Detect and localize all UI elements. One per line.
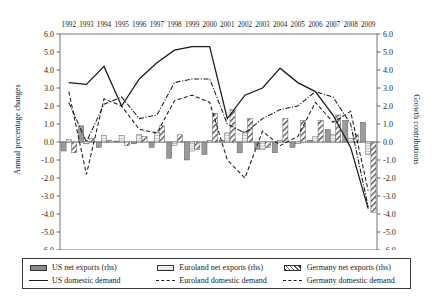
- y-axis-left-tick-label: 4.0: [44, 66, 54, 75]
- bar: [137, 135, 142, 142]
- bar-horizontal-hatch-icon: [155, 262, 175, 273]
- bar: [177, 135, 182, 142]
- bar: [360, 122, 365, 142]
- legend-item-germany-net-exports: Germany net exports (rhs): [283, 262, 410, 273]
- y-axis-left-tick-label: -4.0: [41, 210, 54, 219]
- x-axis-tick-label: 1992: [62, 21, 77, 29]
- bar: [101, 136, 106, 142]
- bar: [172, 142, 177, 146]
- bar: [154, 132, 159, 142]
- x-axis-tick-label: 2005: [291, 21, 306, 29]
- y-axis-left-tick-label: -5.0: [41, 228, 54, 237]
- bar: [313, 137, 318, 142]
- bar: [107, 140, 112, 142]
- bar: [66, 139, 71, 142]
- bar: [142, 137, 147, 142]
- bar: [308, 140, 313, 142]
- bar: [330, 135, 335, 142]
- y-axis-right-tick-label: -2.0: [383, 174, 396, 183]
- y-axis-right-tick-label: -1.0: [383, 156, 396, 165]
- bar: [79, 126, 84, 142]
- y-axis-left-tick-label: 3.0: [44, 84, 54, 93]
- legend-label: US net exports (rhs): [52, 263, 117, 272]
- x-axis-tick-label: 2007: [326, 21, 341, 29]
- legend-row-domestic-demand: US domestic demand Euroland domestic dem…: [23, 274, 410, 287]
- bar: [72, 142, 77, 153]
- line-dashed-icon: [283, 275, 303, 286]
- bar-solid-grey-icon: [28, 262, 48, 273]
- x-axis-tick-label: 2006: [308, 21, 323, 29]
- bar: [278, 140, 283, 142]
- legend-label: Euroland net exports (rhs): [179, 263, 263, 272]
- bar: [242, 131, 247, 142]
- legend-label: Germany net exports (rhs): [307, 263, 391, 272]
- y-axis-right-tick-label: 0.0: [383, 138, 393, 147]
- bar: [190, 142, 195, 151]
- legend-row-net-exports: US net exports (rhs) Euroland net export…: [23, 261, 410, 274]
- bar: [325, 129, 330, 142]
- bar: [225, 133, 230, 142]
- x-axis-tick-label: 2000: [203, 21, 218, 29]
- legend-item-euroland-net-exports: Euroland net exports (rhs): [155, 262, 282, 273]
- y-axis-right-tick-label: 2.0: [383, 102, 393, 111]
- bar: [89, 138, 94, 142]
- y-axis-left-tick-label: 6.0: [44, 30, 54, 39]
- bar: [371, 142, 376, 212]
- bar: [160, 126, 165, 142]
- y-axis-left-tick-label: 2.0: [44, 102, 54, 111]
- legend-item-germany-domestic-demand: Germany domestic demand: [283, 275, 410, 286]
- y-axis-left-tick-label: 5.0: [44, 48, 54, 57]
- y-axis-right-tick-label: -6.0: [383, 246, 396, 250]
- x-axis-tick-label: 1993: [79, 21, 94, 29]
- bar: [131, 142, 136, 144]
- bar: [184, 142, 189, 160]
- x-axis-tick-label: 2003: [255, 21, 270, 29]
- bar: [212, 113, 217, 142]
- x-axis-tick-label: 2004: [273, 21, 288, 29]
- x-axis-tick-label: 1995: [114, 21, 129, 29]
- y-axis-left-tick-label: 0.0: [44, 138, 54, 147]
- x-axis-tick-label: 2008: [343, 21, 358, 29]
- bar: [265, 142, 270, 147]
- bar: [124, 142, 129, 146]
- legend-item-us-domestic-demand: US domestic demand: [23, 275, 155, 286]
- legend-label: Euroland domestic demand: [179, 276, 267, 285]
- bar: [295, 142, 300, 144]
- y-axis-right-tick-label: 6.0: [383, 30, 393, 39]
- bar: [207, 140, 212, 142]
- y-axis-right-tick-label: 5.0: [383, 48, 393, 57]
- bar-diagonal-hatch-icon: [283, 262, 303, 273]
- bar: [290, 142, 295, 147]
- y-axis-left-tick-label: -3.0: [41, 192, 54, 201]
- bar: [149, 142, 154, 147]
- y-axis-right-tick-label: -5.0: [383, 228, 396, 237]
- chart-svg: 6.06.05.05.04.04.03.03.02.02.01.01.00.00…: [0, 0, 433, 250]
- y-axis-right-tick-label: 4.0: [383, 66, 393, 75]
- y-axis-right-tick-label: -3.0: [383, 192, 396, 201]
- bar: [195, 142, 200, 149]
- bar: [366, 142, 371, 155]
- bar: [96, 142, 101, 147]
- chart-figure: Annual percentage changes Growth contrib…: [0, 0, 433, 303]
- bar: [119, 136, 124, 142]
- bar: [219, 140, 224, 142]
- y-axis-right-tick-label: 3.0: [383, 84, 393, 93]
- x-axis-tick-label: 2009: [361, 21, 376, 29]
- x-axis-tick-label: 1999: [185, 21, 200, 29]
- bar: [61, 142, 66, 151]
- bar: [348, 138, 353, 142]
- line-dash-dot-icon: [155, 275, 175, 286]
- x-axis-tick-label: 1996: [132, 21, 147, 29]
- bar: [237, 142, 242, 153]
- bar: [283, 119, 288, 142]
- y-axis-right-tick-label: -4.0: [383, 210, 396, 219]
- y-axis-left-tick-label: -1.0: [41, 156, 54, 165]
- y-axis-right-tick-label: 1.0: [383, 120, 393, 129]
- x-axis-tick-label: 1998: [167, 21, 182, 29]
- bar: [114, 141, 119, 142]
- bar: [167, 142, 172, 158]
- plot-area: 6.06.05.05.04.04.03.03.02.02.01.01.00.00…: [0, 0, 433, 250]
- bar: [84, 142, 89, 144]
- y-axis-left-tick-label: 1.0: [44, 120, 54, 129]
- bar: [260, 142, 265, 149]
